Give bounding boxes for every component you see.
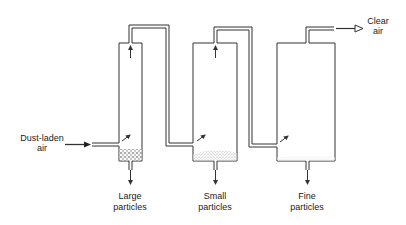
- chamber-2: [193, 43, 237, 184]
- inlet-arrow: [65, 142, 91, 148]
- chamber-2-output-line2: particles: [198, 202, 232, 212]
- chamber-2-output-line1: Small: [204, 191, 227, 201]
- fine-particle-deposit: [278, 156, 335, 161]
- flow-arrow-icon: [280, 136, 288, 142]
- chamber-1: [119, 43, 142, 184]
- flow-arrow-icon: [122, 135, 130, 141]
- large-particle-deposit: [120, 149, 142, 161]
- outlet-label-line1: Clear: [367, 16, 389, 26]
- inlet-label-line1: Dust-laden: [20, 133, 64, 143]
- outlet-pipe: [306, 25, 363, 43]
- flow-arrow-icon: [197, 135, 205, 141]
- clear-air-arrow-icon: [355, 25, 363, 32]
- small-particle-deposit: [194, 151, 237, 161]
- chamber-3-output-line1: Fine: [298, 191, 316, 201]
- inlet-pipe: [92, 143, 119, 146]
- connecting-pipe-2: [214, 27, 277, 147]
- chamber-1-output-line2: particles: [113, 202, 147, 212]
- outlet-label-line2: air: [373, 26, 383, 36]
- chamber-1-output-line1: Large: [118, 191, 141, 201]
- settling-chamber-diagram: Dust-laden air Clear air Large particles…: [0, 0, 406, 225]
- chamber-3: [277, 43, 335, 184]
- inlet-label-line2: air: [37, 143, 47, 153]
- chamber-3-output-line2: particles: [290, 202, 324, 212]
